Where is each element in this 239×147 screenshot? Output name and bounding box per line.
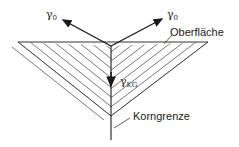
gamma-0-right-label: γ0 xyxy=(167,9,178,22)
gamma-symbol: γ xyxy=(46,8,53,21)
surface-label: Oberfläche xyxy=(170,27,224,38)
gamma-symbol: γ xyxy=(167,8,174,21)
gamma-subscript: 0 xyxy=(174,14,178,22)
gamma-kg-label: γKG xyxy=(120,76,137,89)
gamma-subscript: KG xyxy=(127,81,138,89)
gamma-symbol: γ xyxy=(120,75,127,88)
grain-boundary-groove-diagram xyxy=(0,0,239,147)
grain-boundary-label: Korngrenze xyxy=(133,111,190,122)
gamma-0-left-label: γ0 xyxy=(46,9,57,22)
left-outer-lines xyxy=(12,47,104,120)
grain-boundary-leader-line xyxy=(114,118,130,128)
gamma-subscript: 0 xyxy=(53,14,57,22)
